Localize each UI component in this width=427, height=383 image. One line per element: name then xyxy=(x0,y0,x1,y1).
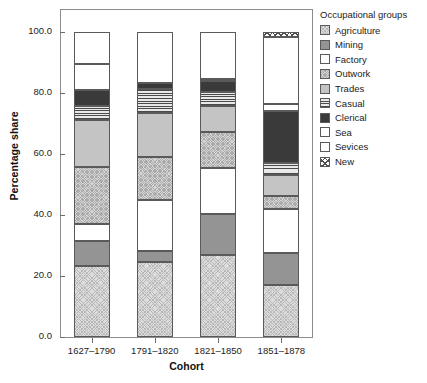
legend-swatch-outwork xyxy=(320,69,330,79)
legend-swatch-mining xyxy=(320,40,330,50)
legend-label-new: New xyxy=(335,157,354,167)
bar-1627-1790[interactable] xyxy=(74,32,110,337)
legend-swatch-trades xyxy=(320,84,330,94)
stacked-bar-chart-figure: Percentage share 0.020.040.060.080.0100.… xyxy=(0,0,427,383)
legend-item-sea[interactable]: Sea xyxy=(320,125,427,140)
bar-1821-1850[interactable] xyxy=(200,32,236,337)
x-tick-mark xyxy=(155,338,156,343)
legend-swatch-new xyxy=(320,157,330,167)
bar-1851-1878[interactable] xyxy=(263,32,299,337)
bar-segment-1851-1878-agriculture[interactable] xyxy=(263,285,299,337)
y-tick-label: 60.0 xyxy=(34,147,53,158)
bar-segment-1791-1820-trades[interactable] xyxy=(137,113,173,157)
legend-item-new[interactable]: New xyxy=(320,154,427,169)
bar-segment-1851-1878-sea[interactable] xyxy=(263,104,299,111)
x-tick-label: 1821–1850 xyxy=(194,345,242,356)
legend-item-sevices[interactable]: Sevices xyxy=(320,140,427,155)
bar-segment-1851-1878-outwork[interactable] xyxy=(263,196,299,209)
legend-item-casual[interactable]: Casual xyxy=(320,96,427,111)
legend-label-agriculture: Agriculture xyxy=(335,26,380,36)
x-tick-label: 1791–1820 xyxy=(131,345,179,356)
x-tick-mark xyxy=(218,338,219,343)
legend-title: Occupational groups xyxy=(320,9,427,20)
x-tick-label: 1627–1790 xyxy=(68,345,116,356)
bar-segment-1791-1820-clerical[interactable] xyxy=(137,83,173,88)
bar-segment-1791-1820-outwork[interactable] xyxy=(137,157,173,200)
bar-segment-1791-1820-sevices[interactable] xyxy=(137,32,173,83)
legend-label-mining: Mining xyxy=(335,40,363,50)
y-tick-label: 40.0 xyxy=(34,208,53,219)
bar-segment-1821-1850-casual[interactable] xyxy=(200,92,236,106)
legend: Occupational groups AgricultureMiningFac… xyxy=(320,9,427,169)
bar-segment-1851-1878-factory[interactable] xyxy=(263,209,299,253)
bar-segment-1821-1850-clerical[interactable] xyxy=(200,81,236,92)
legend-swatch-clerical xyxy=(320,113,330,123)
x-tick-mark xyxy=(92,338,93,343)
x-axis-label: Cohort xyxy=(60,360,313,372)
x-tick-mark xyxy=(281,338,282,343)
bar-segment-1627-1790-clerical[interactable] xyxy=(74,90,110,106)
legend-item-agriculture[interactable]: Agriculture xyxy=(320,23,427,38)
legend-label-factory: Factory xyxy=(335,55,367,65)
bar-segment-1821-1850-sevices[interactable] xyxy=(200,32,236,79)
y-tick-label: 80.0 xyxy=(34,86,53,97)
bar-segment-1821-1850-trades[interactable] xyxy=(200,106,236,132)
legend-swatch-agriculture xyxy=(320,25,330,35)
bar-segment-1627-1790-sea[interactable] xyxy=(74,64,110,90)
plot-data-area xyxy=(60,32,313,337)
legend-label-outwork: Outwork xyxy=(335,69,370,79)
bar-segment-1627-1790-agriculture[interactable] xyxy=(74,266,110,337)
legend-item-mining[interactable]: Mining xyxy=(320,38,427,53)
bar-segment-1627-1790-sevices[interactable] xyxy=(74,32,110,64)
legend-item-outwork[interactable]: Outwork xyxy=(320,67,427,82)
bar-segment-1821-1850-factory[interactable] xyxy=(200,168,236,214)
bar-segment-1851-1878-trades[interactable] xyxy=(263,175,299,196)
y-tick-label: 100.0 xyxy=(28,25,52,36)
legend-swatch-casual xyxy=(320,98,330,108)
legend-swatch-sevices xyxy=(320,142,330,152)
bar-segment-1851-1878-sevices[interactable] xyxy=(263,37,299,105)
legend-label-sea: Sea xyxy=(335,128,352,138)
y-tick-label: 20.0 xyxy=(34,269,53,280)
bar-segment-1791-1820-mining[interactable] xyxy=(137,251,173,262)
bar-segment-1791-1820-agriculture[interactable] xyxy=(137,262,173,337)
bar-segment-1821-1850-outwork[interactable] xyxy=(200,132,236,167)
bar-segment-1627-1790-mining[interactable] xyxy=(74,241,110,266)
legend-label-trades: Trades xyxy=(335,84,364,94)
legend-item-factory[interactable]: Factory xyxy=(320,52,427,67)
bar-segment-1627-1790-trades[interactable] xyxy=(74,120,110,167)
legend-item-clerical[interactable]: Clerical xyxy=(320,111,427,126)
legend-swatch-factory xyxy=(320,54,330,64)
y-tick-label: 0.0 xyxy=(39,330,52,341)
bar-segment-1851-1878-casual[interactable] xyxy=(263,163,299,175)
legend-label-casual: Casual xyxy=(335,99,365,109)
bar-segment-1791-1820-casual[interactable] xyxy=(137,89,173,113)
bar-segment-1851-1878-new[interactable] xyxy=(263,32,299,37)
legend-item-trades[interactable]: Trades xyxy=(320,81,427,96)
x-tick-label: 1851–1878 xyxy=(258,345,306,356)
bar-segment-1821-1850-sea[interactable] xyxy=(200,79,236,82)
bar-1791-1820[interactable] xyxy=(137,32,173,337)
bar-segment-1851-1878-mining[interactable] xyxy=(263,253,299,285)
bar-segment-1791-1820-factory[interactable] xyxy=(137,200,173,251)
bar-segment-1821-1850-mining[interactable] xyxy=(200,214,236,255)
legend-label-sevices: Sevices xyxy=(335,142,368,152)
bar-segment-1851-1878-clerical[interactable] xyxy=(263,111,299,163)
y-axis-ticks: 0.020.040.060.080.0100.0 xyxy=(0,32,60,337)
bar-segment-1627-1790-factory[interactable] xyxy=(74,224,110,241)
bar-segment-1821-1850-agriculture[interactable] xyxy=(200,255,236,337)
bar-segment-1627-1790-outwork[interactable] xyxy=(74,167,110,224)
legend-items: AgricultureMiningFactoryOutworkTradesCas… xyxy=(320,23,427,169)
legend-label-clerical: Clerical xyxy=(335,113,367,123)
bar-segment-1627-1790-casual[interactable] xyxy=(74,106,110,120)
legend-swatch-sea xyxy=(320,127,330,137)
